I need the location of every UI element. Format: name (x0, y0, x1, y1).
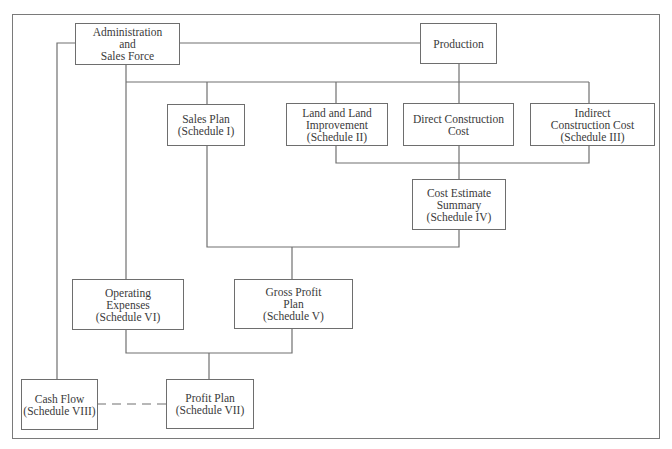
node-indirect-construction-cost: Indirect Construction Cost (Schedule III… (530, 103, 655, 146)
node-sales-plan: Sales Plan (Schedule I) (167, 104, 245, 146)
node-label: (Schedule VII) (176, 404, 244, 416)
node-direct-construction-cost: Direct Construction Cost (403, 103, 514, 146)
node-label: Profit Plan (185, 392, 235, 404)
node-label: (Schedule IV) (427, 211, 492, 223)
node-profit-plan: Profit Plan (Schedule VII) (166, 379, 254, 429)
node-label: Sales Plan (182, 113, 230, 125)
node-label: (Schedule VI) (96, 311, 161, 323)
node-label: and (119, 38, 136, 50)
connector-lines (0, 0, 672, 449)
node-label: Plan (283, 298, 303, 310)
node-label: Cost (448, 125, 469, 137)
node-land-improvement: Land and Land Improvement (Schedule II) (286, 103, 388, 146)
node-label: Gross Profit (266, 286, 322, 298)
node-label: Expenses (106, 299, 149, 311)
node-label: Operating (105, 287, 151, 299)
node-label: (Schedule V) (263, 310, 324, 322)
node-label: Sales Force (101, 50, 154, 62)
node-label: Construction Cost (551, 119, 634, 131)
node-label: Production (433, 38, 483, 50)
node-production: Production (420, 23, 497, 64)
node-label: Indirect (575, 107, 611, 119)
node-label: Cash Flow (35, 393, 85, 405)
node-label: (Schedule I) (178, 125, 235, 137)
node-label: Direct Construction (413, 113, 504, 125)
node-label: Cost Estimate (427, 187, 491, 199)
node-label: (Schedule II) (307, 131, 367, 143)
node-label: (Schedule VIII) (23, 405, 95, 417)
node-cash-flow: Cash Flow (Schedule VIII) (21, 379, 98, 430)
node-administration-sales-force: Administration and Sales Force (75, 23, 180, 65)
node-label: Administration (93, 26, 163, 38)
node-label: Improvement (306, 119, 368, 131)
node-label: Summary (437, 199, 482, 211)
node-label: (Schedule III) (560, 131, 624, 143)
node-gross-profit-plan: Gross Profit Plan (Schedule V) (234, 279, 353, 329)
node-cost-estimate-summary: Cost Estimate Summary (Schedule IV) (412, 179, 506, 230)
node-operating-expenses: Operating Expenses (Schedule VI) (72, 279, 184, 330)
node-label: Land and Land (302, 107, 372, 119)
